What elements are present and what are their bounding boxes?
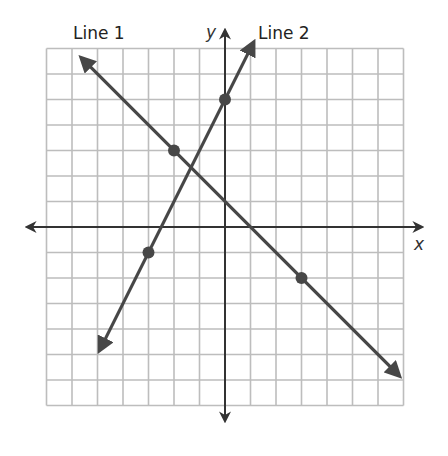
line-2-label: Line 2 <box>258 25 310 42</box>
line-2-point <box>143 247 155 259</box>
y-axis-label: y <box>206 24 216 41</box>
line-1-label: Line 1 <box>73 25 125 42</box>
line-1-point <box>168 145 180 157</box>
line-1-point <box>296 272 308 284</box>
coordinate-plane <box>0 0 448 456</box>
x-axis-label: x <box>414 236 424 253</box>
line-2-point <box>219 94 231 106</box>
line-1 <box>82 59 398 375</box>
